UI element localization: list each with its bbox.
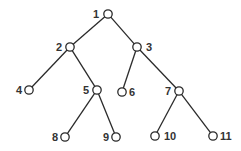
tree-diagram: 1234567891011 [0, 0, 241, 151]
node-label-1: 1 [93, 8, 99, 20]
node-5 [93, 86, 101, 94]
node-label-8: 8 [52, 131, 58, 143]
node-10 [151, 132, 159, 140]
node-label-10: 10 [164, 130, 176, 142]
edge-5-9 [99, 94, 115, 133]
node-9 [112, 133, 120, 141]
tree-edges [32, 17, 211, 134]
edge-7-10 [157, 95, 177, 133]
node-label-11: 11 [220, 130, 232, 142]
node-label-3: 3 [146, 41, 152, 53]
node-label-2: 2 [56, 41, 62, 53]
node-7 [175, 87, 183, 95]
edge-2-5 [72, 51, 95, 87]
node-11 [209, 132, 217, 140]
node-8 [61, 133, 69, 141]
node-1 [104, 10, 112, 18]
node-6 [118, 88, 126, 96]
node-3 [133, 43, 141, 51]
node-4 [25, 86, 33, 94]
tree-labels: 1234567891011 [16, 8, 232, 143]
node-label-5: 5 [83, 84, 89, 96]
edge-1-3 [111, 17, 134, 44]
edge-1-2 [73, 17, 105, 44]
edge-3-7 [140, 50, 176, 88]
node-label-6: 6 [129, 86, 135, 98]
node-label-4: 4 [16, 84, 23, 96]
edge-2-4 [32, 50, 67, 87]
node-label-7: 7 [165, 85, 171, 97]
edge-3-6 [123, 51, 135, 88]
node-2 [66, 43, 74, 51]
edge-5-8 [67, 93, 94, 133]
node-label-9: 9 [103, 131, 109, 143]
edge-7-11 [182, 94, 211, 132]
